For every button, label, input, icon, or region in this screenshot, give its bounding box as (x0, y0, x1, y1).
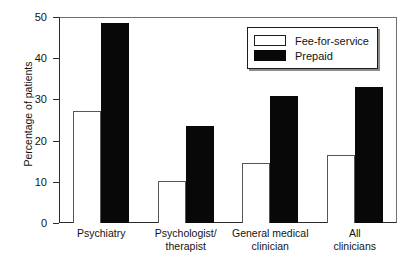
bar-chart-figure: Percentage of patients 01020304050 Psych… (0, 0, 416, 266)
legend-item-fee-for-service[interactable]: Fee-for-service (254, 33, 369, 48)
legend-item-prepaid[interactable]: Prepaid (254, 48, 369, 63)
category-label: General medicalclinician (228, 227, 313, 252)
bar-prepaid (186, 126, 214, 223)
legend-label-fee-for-service: Fee-for-service (295, 35, 369, 47)
y-tick-mark (53, 141, 59, 142)
y-tick-mark (53, 17, 59, 18)
y-tick-label: 30 (0, 93, 47, 105)
category-label: Allclinicians (313, 227, 398, 252)
bar-prepaid (355, 87, 383, 223)
y-tick-label: 10 (0, 176, 47, 188)
legend-label-prepaid: Prepaid (295, 50, 333, 62)
bar-prepaid (101, 23, 129, 223)
y-tick-mark (53, 99, 59, 100)
y-tick-label: 20 (0, 135, 47, 147)
category-label-line: clinician (228, 240, 313, 253)
y-tick-label: 40 (0, 52, 47, 64)
category-label-line: Psychiatry (59, 227, 144, 240)
y-tick-label: 0 (0, 217, 47, 229)
category-label: Psychiatry (59, 227, 144, 240)
bar-fee-for-service (73, 111, 101, 223)
legend-swatch-open-icon (254, 35, 286, 46)
category-label: Psychologist/therapist (144, 227, 229, 252)
bar-prepaid (270, 96, 298, 223)
bar-fee-for-service (327, 155, 355, 223)
bar-fee-for-service (158, 181, 186, 223)
bar-fee-for-service (242, 163, 270, 223)
category-label-line: therapist (144, 240, 229, 253)
legend-swatch-filled-icon (254, 50, 286, 61)
y-tick-mark (53, 223, 59, 224)
y-tick-mark (53, 58, 59, 59)
y-tick-mark (53, 182, 59, 183)
category-label-line: Psychologist/ (144, 227, 229, 240)
category-label-line: General medical (228, 227, 313, 240)
category-label-line: All (313, 227, 398, 240)
legend: Fee-for-service Prepaid (247, 27, 378, 69)
y-tick-label: 50 (0, 11, 47, 23)
category-label-line: clinicians (313, 240, 398, 253)
